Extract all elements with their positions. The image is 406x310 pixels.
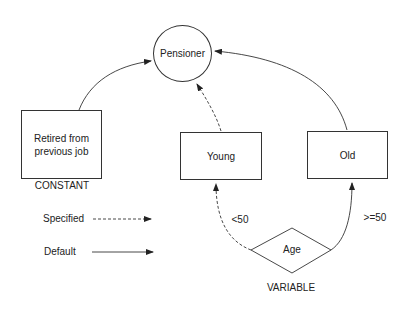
variable-annotation: VARIABLE: [267, 282, 315, 294]
legend-specified-label: Specified: [43, 213, 84, 225]
constant-annotation: CONSTANT: [35, 180, 89, 192]
edge-age-to-old: [331, 183, 352, 250]
edge-label-greater-equal-50: >=50: [364, 212, 387, 224]
legend-default-label: Default: [44, 246, 76, 258]
age-label: Age: [283, 244, 301, 256]
retired-node: Retired from previous job: [21, 110, 102, 179]
edge-label-less-than-50: <50: [232, 214, 249, 226]
young-node: Young: [180, 132, 262, 180]
young-label: Young: [207, 150, 235, 163]
retired-label-line1: Retired from: [34, 132, 89, 145]
pensioner-label: Pensioner: [160, 48, 205, 59]
old-node: Old: [307, 131, 388, 179]
edge-young-to-pensioner: [197, 84, 221, 131]
edge-old-to-pensioner: [215, 51, 347, 130]
old-label: Old: [340, 149, 356, 162]
pensioner-node: Pensioner: [153, 25, 212, 82]
retired-label-line2: previous job: [35, 145, 89, 158]
edge-retired-to-pensioner: [79, 61, 151, 110]
